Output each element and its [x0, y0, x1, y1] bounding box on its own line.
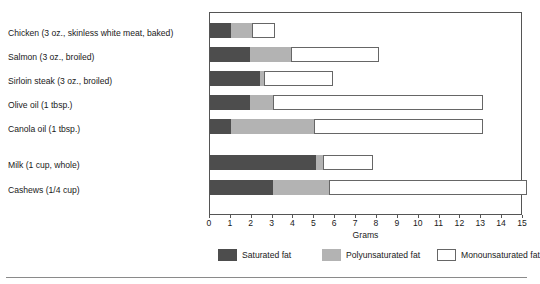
legend-item: Saturated fat	[218, 248, 291, 262]
category-label: Olive oil (1 tbsp.)	[8, 100, 72, 110]
bar-row	[210, 47, 521, 62]
bar-segment	[250, 95, 273, 110]
x-axis: 0123456789101112131415	[209, 215, 522, 229]
category-label: Cashews (1/4 cup)	[8, 185, 80, 195]
bar-segment	[273, 180, 329, 195]
category-label: Milk (1 cup, whole)	[8, 160, 80, 170]
x-axis-label: Grams	[209, 230, 522, 240]
bar-segment	[252, 23, 275, 38]
category-label: Canola oil (1 tbsp.)	[8, 124, 80, 134]
legend-swatch-mono	[437, 249, 456, 261]
category-label: Salmon (3 oz., broiled)	[8, 52, 94, 62]
bar-segment	[210, 95, 250, 110]
x-tick-label: 2	[248, 218, 253, 228]
bar-row	[210, 95, 521, 110]
bar-segment	[210, 119, 231, 134]
chart-legend: Saturated fatPolyunsaturated fatMonounsa…	[209, 248, 522, 264]
legend-label: Polyunsaturated fat	[346, 250, 420, 260]
x-tick-label: 13	[475, 218, 485, 228]
plot-area	[209, 12, 522, 215]
bar-segment	[231, 119, 314, 134]
x-tick-label: 15	[517, 218, 527, 228]
x-tick-label: 11	[434, 218, 443, 228]
legend-item: Polyunsaturated fat	[322, 248, 420, 262]
x-tick-label: 0	[207, 218, 212, 228]
x-tick-label: 9	[394, 218, 399, 228]
x-tick-label: 6	[332, 218, 337, 228]
bar-row	[210, 71, 521, 86]
legend-swatch-poly	[322, 249, 341, 261]
bar-segment	[210, 71, 260, 86]
bar-segment	[210, 155, 316, 170]
x-tick-label: 5	[311, 218, 316, 228]
bar-row	[210, 23, 521, 38]
bar-segment	[250, 47, 292, 62]
bar-segment	[291, 47, 379, 62]
bar-segment	[329, 180, 527, 195]
bar-segment	[323, 155, 373, 170]
x-tick-label: 10	[413, 218, 423, 228]
bar-segment	[273, 95, 484, 110]
legend-swatch-sat	[218, 249, 237, 261]
bar-segment	[314, 119, 483, 134]
bar-segment	[264, 71, 333, 86]
bar-segment	[231, 23, 252, 38]
x-tick-label: 14	[496, 218, 506, 228]
bar-row	[210, 119, 521, 134]
category-label: Sirloin steak (3 oz., broiled)	[8, 76, 112, 86]
bar-segment	[210, 180, 273, 195]
x-tick-label: 3	[269, 218, 274, 228]
legend-label: Monounsaturated fat	[461, 250, 540, 260]
x-tick-label: 1	[227, 218, 232, 228]
bar-segment	[210, 47, 250, 62]
x-tick-label: 7	[353, 218, 358, 228]
legend-label: Saturated fat	[242, 250, 291, 260]
category-label: Chicken (3 oz., skinless white meat, bak…	[8, 28, 173, 38]
bar-row	[210, 180, 521, 195]
x-tick-label: 8	[374, 218, 379, 228]
x-tick-label: 12	[455, 218, 465, 228]
bar-row	[210, 155, 521, 170]
x-tick-label: 4	[290, 218, 295, 228]
bottom-divider	[6, 277, 527, 278]
bar-segment	[210, 23, 231, 38]
legend-item: Monounsaturated fat	[437, 248, 540, 262]
